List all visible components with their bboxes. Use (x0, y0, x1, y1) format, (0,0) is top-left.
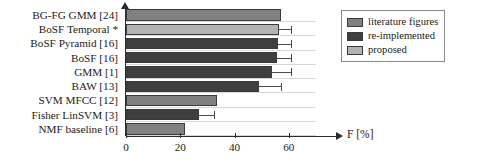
x-tick (126, 133, 127, 138)
legend-swatch-literature-figures (347, 18, 363, 27)
y-axis-line (125, 6, 126, 136)
bar (126, 9, 281, 20)
bar-row (126, 22, 316, 36)
bar-row (126, 79, 316, 93)
bar (126, 52, 277, 63)
bar-chart: BG-FG GMM [24]BoSF Temporal *BoSF Pyrami… (0, 0, 480, 166)
bar-row (126, 122, 316, 136)
error-bar (279, 29, 291, 30)
bar-row (126, 108, 316, 122)
x-tick-label: 20 (175, 141, 186, 153)
y-axis-label: BoSF Pyramid [16] (30, 36, 118, 50)
x-tick (180, 133, 181, 138)
legend-swatch-proposed (347, 46, 363, 55)
bar-row (126, 51, 316, 65)
y-axis-label: BG-FG GMM [24] (32, 8, 118, 22)
x-tick-label: 60 (283, 141, 294, 153)
error-bar-cap (291, 40, 292, 48)
bar (126, 109, 199, 120)
chart-legend: literature figures re-implemented propos… (341, 10, 445, 62)
y-axis-label: BAW [13] (72, 79, 118, 93)
x-tick-label: 40 (229, 141, 240, 153)
bar-row (126, 8, 316, 22)
bar (126, 95, 217, 106)
error-bar-cap (291, 26, 292, 34)
y-axis-labels: BG-FG GMM [24]BoSF Temporal *BoSF Pyrami… (0, 8, 122, 136)
y-axis-label: SVM MFCC [12] (38, 93, 118, 107)
bar-row (126, 93, 316, 107)
error-bar-cap (291, 68, 292, 76)
legend-item: re-implemented (347, 29, 438, 43)
bar (126, 66, 272, 77)
legend-swatch-re-implemented (347, 32, 363, 41)
bar (126, 24, 279, 35)
legend-item: literature figures (347, 15, 438, 29)
error-bar (259, 86, 281, 87)
error-bar (272, 72, 291, 73)
error-bar (277, 58, 291, 59)
x-axis-arrow-icon (336, 132, 343, 140)
y-axis-arrow-icon (121, 2, 129, 9)
legend-label: re-implemented (368, 30, 435, 42)
plot-area (126, 8, 316, 136)
error-bar (278, 44, 290, 45)
error-bar-cap (214, 111, 215, 119)
error-bar (199, 115, 214, 116)
x-tick (235, 133, 236, 138)
y-axis-label: BoSF [16] (71, 51, 118, 65)
legend-label: proposed (368, 44, 407, 56)
bar-row (126, 65, 316, 79)
error-bar-cap (281, 83, 282, 91)
y-axis-label: BoSF Temporal * (39, 22, 118, 36)
bar (126, 38, 278, 49)
y-axis-label: GMM [1] (74, 65, 118, 79)
x-tick-label: 0 (123, 141, 129, 153)
bar-row (126, 36, 316, 50)
legend-item: proposed (347, 43, 438, 57)
bar (126, 81, 259, 92)
x-tick (289, 133, 290, 138)
y-axis-label: NMF baseline [6] (38, 122, 118, 136)
y-axis-label: Fisher LinSVM [3] (32, 108, 118, 122)
bar (126, 123, 185, 134)
x-axis-line (126, 136, 338, 137)
legend-label: literature figures (368, 16, 438, 28)
error-bar-cap (291, 54, 292, 62)
x-axis-title: F [%] (347, 128, 374, 140)
